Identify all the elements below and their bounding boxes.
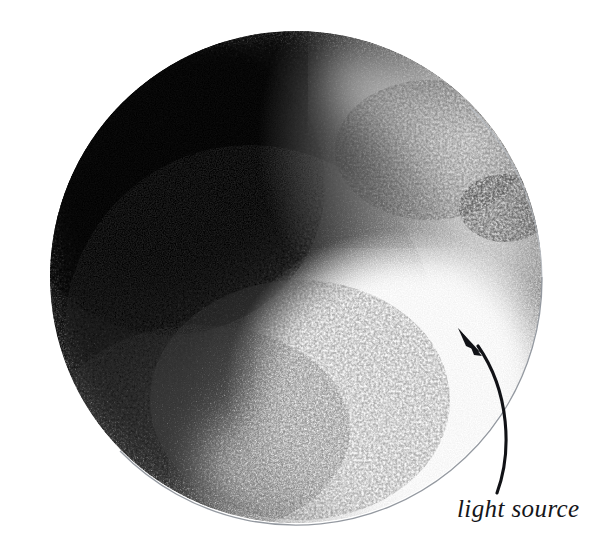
light-source-label: light source	[457, 496, 580, 521]
figure-canvas: light source	[0, 0, 599, 556]
sphere-illustration	[0, 0, 599, 556]
paper-grain	[50, 31, 542, 523]
